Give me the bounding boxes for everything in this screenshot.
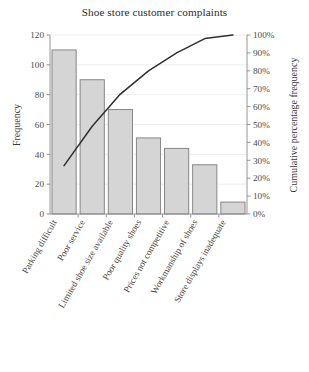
bars-group: [52, 50, 245, 214]
y-axis-tick-label: 120: [30, 30, 44, 40]
y2-axis-tick-label: 10%: [253, 191, 270, 201]
bar: [136, 138, 160, 214]
x-axis-ticks: [78, 214, 219, 218]
y2-axis-tick-label: 0%: [253, 209, 266, 219]
bar: [52, 50, 76, 214]
y2-axis-title: Cumulative percentage frequency: [288, 58, 299, 193]
y2-axis-tick-label: 70%: [253, 84, 270, 94]
bar: [165, 148, 189, 214]
y2-axis-tick-label: 100%: [253, 30, 275, 40]
y2-axis-tick-label: 90%: [253, 48, 270, 58]
bar: [193, 165, 217, 214]
category-label: Store displays inadequate: [172, 218, 228, 304]
y2-axis-tick-label: 60%: [253, 102, 270, 112]
category-label: Limited shoe size available: [56, 218, 115, 310]
y-axis-tick-label: 40: [35, 150, 45, 160]
bar: [221, 202, 245, 214]
y-axis-tick-label: 20: [35, 179, 45, 189]
y-axis-tick-label: 0: [39, 209, 44, 219]
y-axis-tick-label: 100: [30, 60, 44, 70]
y2-axis-tick-label: 20%: [253, 173, 270, 183]
y-axis-tick-label: 80: [35, 90, 45, 100]
bar: [108, 110, 132, 214]
right-axis-ticks: 0%10%20%30%40%50%60%70%80%90%100%: [247, 30, 275, 219]
y2-axis-tick-label: 80%: [253, 66, 270, 76]
pareto-chart: Shoe store customer complaints 020406080…: [0, 0, 309, 372]
category-labels: Parking difficultPoor serviceLimited sho…: [20, 218, 228, 310]
y2-axis-tick-label: 50%: [253, 120, 270, 130]
y-axis-title: Frequency: [11, 104, 22, 146]
category-label: Poor service: [55, 218, 86, 263]
y2-axis-tick-label: 40%: [253, 138, 270, 148]
category-label: Parking difficult: [20, 218, 59, 276]
left-axis-ticks: 020406080100120: [30, 30, 50, 219]
chart-plot-area: 020406080100120 0%10%20%30%40%50%60%70%8…: [0, 0, 309, 372]
y-axis-tick-label: 60: [35, 120, 45, 130]
bar: [80, 80, 104, 214]
y2-axis-tick-label: 30%: [253, 156, 270, 166]
